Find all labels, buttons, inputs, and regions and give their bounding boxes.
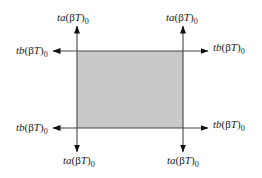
label-bottom-left-horizontal: tb(βT)0 xyxy=(16,121,48,136)
label-top-right-vertical: ta(βT)0 xyxy=(166,11,198,26)
label-top-right-horizontal: tb(βT)0 xyxy=(213,41,245,56)
label-top-left-vertical: ta(βT)0 xyxy=(57,11,89,26)
shaded-region xyxy=(77,51,183,128)
label-top-left-horizontal: tb(βT)0 xyxy=(16,44,48,59)
label-bottom-right-vertical: ta(βT)0 xyxy=(167,154,199,169)
label-bottom-left-vertical: ta(βT)0 xyxy=(63,154,95,169)
label-bottom-right-horizontal: tb(βT)0 xyxy=(213,118,245,133)
rectangle-arrow-diagram: ta(βT)0 tb(βT)0 ta(βT)0 tb(βT)0 tb(βT)0 … xyxy=(0,0,262,178)
